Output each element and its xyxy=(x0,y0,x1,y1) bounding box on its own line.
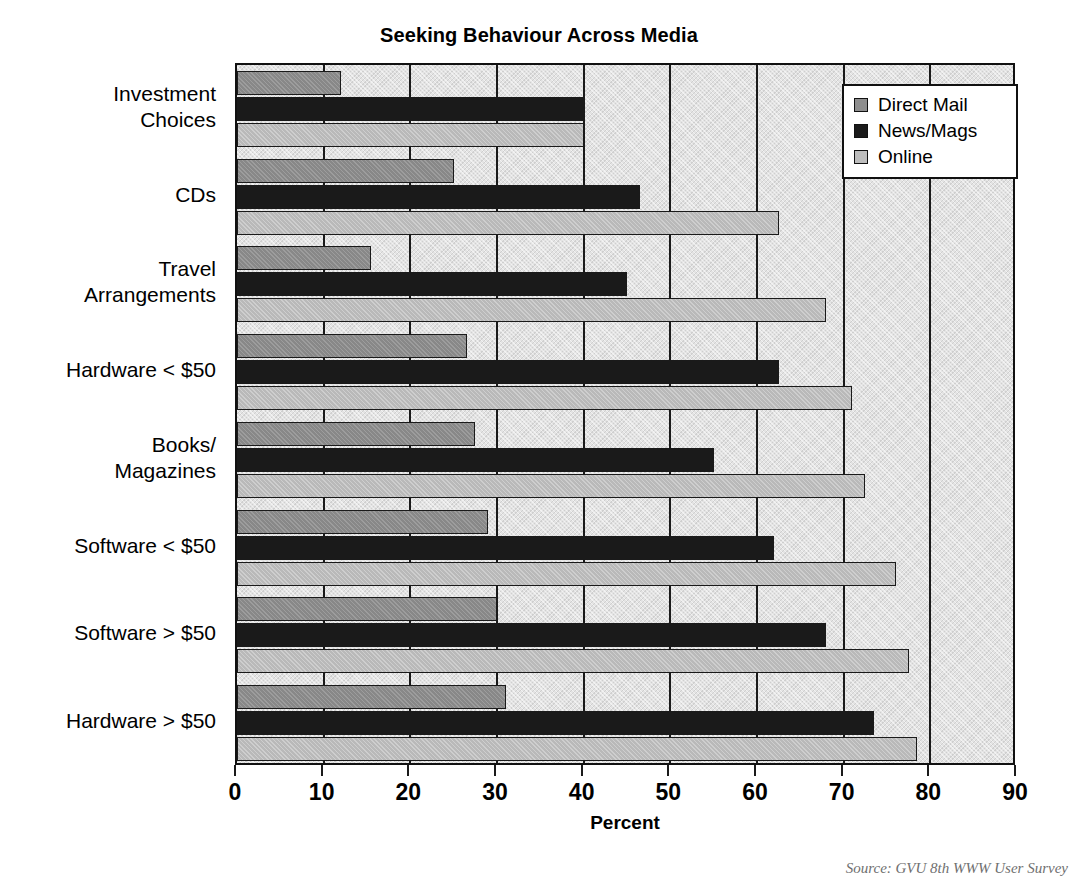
legend-item-on[interactable]: Online xyxy=(854,144,1008,170)
legend-label: News/Mags xyxy=(878,120,977,142)
y-label-0: Investment Choices xyxy=(113,81,216,133)
bar-news-mags-1[interactable] xyxy=(237,185,640,209)
x-tick-label-40: 40 xyxy=(569,779,595,806)
bar-group xyxy=(237,679,1013,765)
bar-group xyxy=(237,416,1013,504)
x-tick-label-0: 0 xyxy=(229,779,242,806)
bar-online-1[interactable] xyxy=(237,211,779,235)
bar-news-mags-3[interactable] xyxy=(237,360,779,384)
x-tick-label-10: 10 xyxy=(309,779,335,806)
tickmark-10 xyxy=(321,765,323,776)
bar-online-0[interactable] xyxy=(237,123,584,147)
bar-news-mags-6[interactable] xyxy=(237,623,826,647)
y-label-5: Software < $50 xyxy=(74,533,216,559)
bar-direct-mail-1[interactable] xyxy=(237,159,454,183)
legend-swatch-icon-on xyxy=(854,150,868,164)
legend[interactable]: Direct MailNews/MagsOnline xyxy=(842,84,1018,179)
tickmark-30 xyxy=(494,765,496,776)
chart-title: Seeking Behaviour Across Media xyxy=(0,24,1078,47)
bar-group xyxy=(237,328,1013,416)
tickmark-80 xyxy=(927,765,929,776)
bar-direct-mail-5[interactable] xyxy=(237,510,488,534)
x-tick-label-70: 70 xyxy=(829,779,855,806)
bar-news-mags-4[interactable] xyxy=(237,448,714,472)
y-label-3: Hardware < $50 xyxy=(66,357,216,383)
bar-online-7[interactable] xyxy=(237,737,917,761)
bar-group xyxy=(237,504,1013,592)
y-axis-category-labels: Investment ChoicesCDsTravel Arrangements… xyxy=(0,63,226,765)
legend-swatch-icon-dm xyxy=(854,98,868,112)
y-label-7: Hardware > $50 xyxy=(66,708,216,734)
bar-direct-mail-3[interactable] xyxy=(237,334,467,358)
tickmark-50 xyxy=(667,765,669,776)
legend-label: Online xyxy=(878,146,933,168)
y-label-6: Software > $50 xyxy=(74,620,216,646)
bar-news-mags-7[interactable] xyxy=(237,711,874,735)
x-axis-title: Percent xyxy=(235,812,1015,834)
x-tick-label-60: 60 xyxy=(742,779,768,806)
y-label-1: CDs xyxy=(175,182,216,208)
tickmark-20 xyxy=(407,765,409,776)
bar-news-mags-2[interactable] xyxy=(237,272,627,296)
x-tick-label-50: 50 xyxy=(656,779,682,806)
bar-group xyxy=(237,241,1013,329)
bar-group xyxy=(237,592,1013,680)
bar-news-mags-5[interactable] xyxy=(237,536,774,560)
legend-swatch-icon-nm xyxy=(854,124,868,138)
x-tick-label-80: 80 xyxy=(916,779,942,806)
tickmark-70 xyxy=(841,765,843,776)
y-label-2: Travel Arrangements xyxy=(84,256,216,308)
bar-news-mags-0[interactable] xyxy=(237,97,584,121)
legend-item-nm[interactable]: News/Mags xyxy=(854,118,1008,144)
bar-direct-mail-0[interactable] xyxy=(237,71,341,95)
bar-online-6[interactable] xyxy=(237,649,909,673)
x-tick-label-30: 30 xyxy=(482,779,508,806)
bar-online-3[interactable] xyxy=(237,386,852,410)
legend-label: Direct Mail xyxy=(878,94,968,116)
bar-direct-mail-4[interactable] xyxy=(237,422,475,446)
x-tick-label-90: 90 xyxy=(1002,779,1028,806)
bar-online-2[interactable] xyxy=(237,298,826,322)
y-label-4: Books/ Magazines xyxy=(114,432,216,484)
x-tick-label-20: 20 xyxy=(396,779,422,806)
bar-online-5[interactable] xyxy=(237,562,896,586)
bar-direct-mail-6[interactable] xyxy=(237,597,497,621)
bar-direct-mail-7[interactable] xyxy=(237,685,506,709)
source-note: Source: GVU 8th WWW User Survey xyxy=(846,860,1068,877)
legend-item-dm[interactable]: Direct Mail xyxy=(854,92,1008,118)
tickmark-90 xyxy=(1014,765,1016,776)
tickmark-40 xyxy=(581,765,583,776)
bar-direct-mail-2[interactable] xyxy=(237,246,371,270)
x-axis-ticks: 0102030405060708090 xyxy=(235,765,1015,811)
bar-online-4[interactable] xyxy=(237,474,865,498)
tickmark-0 xyxy=(234,765,236,776)
tickmark-60 xyxy=(754,765,756,776)
